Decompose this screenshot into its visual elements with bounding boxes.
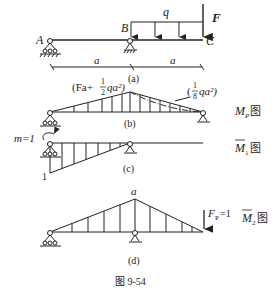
dim-left-label: a (94, 54, 100, 66)
svg-text:qa²): qa²) (199, 85, 217, 98)
unit-moment-arrow-icon (43, 133, 54, 140)
point-b-label: B (121, 21, 129, 35)
load-q-label: q (163, 5, 169, 19)
svg-text:(Fa+: (Fa+ (72, 81, 93, 94)
svg-text:2: 2 (101, 88, 105, 97)
svg-text:1: 1 (193, 81, 197, 90)
pin-support-icon (40, 111, 61, 127)
point-c-label: C (206, 34, 215, 48)
mid-span-moment-label: ( 1 8 qa²) (187, 81, 217, 101)
svg-text:2: 2 (252, 219, 256, 227)
panel-b-sublabel: (b) (124, 118, 136, 130)
unit-force-label: F P =1 (207, 207, 231, 222)
pin-support-icon (40, 231, 61, 247)
panel-d-moment-diagram (40, 199, 204, 246)
roller-support-b-icon (124, 39, 137, 54)
peak-moment-label: (Fa+ 1 2 qa²) (72, 77, 125, 97)
panel-d-sublabel: (d) (128, 255, 140, 267)
panel-a-sublabel: (a) (128, 73, 139, 85)
svg-text:8: 8 (193, 92, 197, 101)
panel-c-moment-diagram (40, 133, 203, 173)
m1-diagram-title: M 1 图 (234, 140, 261, 157)
leader-line (175, 97, 190, 101)
svg-text:(: ( (187, 85, 191, 98)
m2-diagram-title: M 2 图 (241, 210, 268, 227)
svg-text:图: 图 (250, 105, 261, 117)
peak-a-label: a (131, 185, 137, 197)
svg-text:图: 图 (250, 142, 261, 154)
figure-9-54: A B C q F a a (a) (Fa+ 1 2 qa²) ( 1 (0, 0, 276, 300)
svg-text:P: P (215, 214, 219, 222)
distributed-load-q-icon (131, 22, 203, 37)
svg-text:1: 1 (101, 77, 105, 86)
svg-text:qa²): qa²) (107, 81, 125, 94)
panel-a-beam-diagram (40, 4, 204, 70)
force-f-label: F (211, 10, 221, 25)
unit-moment-label: m=1 (14, 132, 35, 144)
svg-text:1: 1 (245, 149, 249, 157)
svg-text:=1: =1 (220, 208, 231, 219)
point-a-label: A (35, 33, 44, 47)
figure-caption: 图 9-54 (115, 276, 146, 287)
mp-diagram-title: M P 图 (234, 104, 261, 120)
dim-right-label: a (170, 54, 176, 66)
panel-c-sublabel: (c) (123, 163, 134, 175)
svg-text:图: 图 (257, 212, 268, 224)
m2-outline (50, 199, 203, 232)
dimension-line (50, 64, 204, 70)
unit-value-label: 1 (42, 171, 47, 182)
svg-text:F: F (207, 207, 215, 219)
